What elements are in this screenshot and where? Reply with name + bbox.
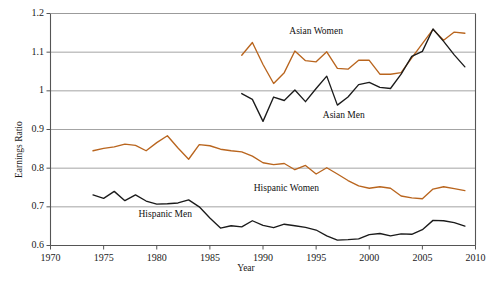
series-annotation-hispanic-men: Hispanic Men xyxy=(138,209,192,219)
x-tick-label-2005: 2005 xyxy=(402,252,442,263)
x-tick-label-2000: 2000 xyxy=(349,252,389,263)
x-axis-label-text: Year xyxy=(0,263,492,273)
earnings-ratio-chart: Earnings Ratio Year 0.60.70.80.911.11.2 … xyxy=(0,0,492,283)
x-tick-label-1975: 1975 xyxy=(84,252,124,263)
y-tick-label-1.1: 1.1 xyxy=(10,46,44,57)
x-tick-label-1980: 1980 xyxy=(137,252,177,263)
gridlines xyxy=(51,14,476,246)
y-tick-label-0.9: 0.9 xyxy=(10,123,44,134)
chart-plot-area xyxy=(0,0,492,283)
series-line-asian-men xyxy=(242,29,465,121)
y-tick-label-0.6: 0.6 xyxy=(10,239,44,250)
x-tick-label-1990: 1990 xyxy=(243,252,283,263)
axis-ticks xyxy=(47,14,476,250)
series-line-asian-women xyxy=(242,29,465,83)
x-tick-label-1985: 1985 xyxy=(190,252,230,263)
x-tick-label-1995: 1995 xyxy=(296,252,336,263)
y-tick-label-1: 1 xyxy=(10,84,44,95)
series-annotation-asian-men: Asian Men xyxy=(323,110,365,120)
x-tick-label-1970: 1970 xyxy=(31,252,71,263)
y-tick-label-1.2: 1.2 xyxy=(10,7,44,18)
series-annotation-hispanic-women: Hispanic Women xyxy=(254,183,319,193)
y-tick-label-0.7: 0.7 xyxy=(10,200,44,211)
x-tick-label-2010: 2010 xyxy=(456,252,492,263)
series-annotation-asian-women: Asian Women xyxy=(289,26,343,36)
y-tick-label-0.8: 0.8 xyxy=(10,162,44,173)
